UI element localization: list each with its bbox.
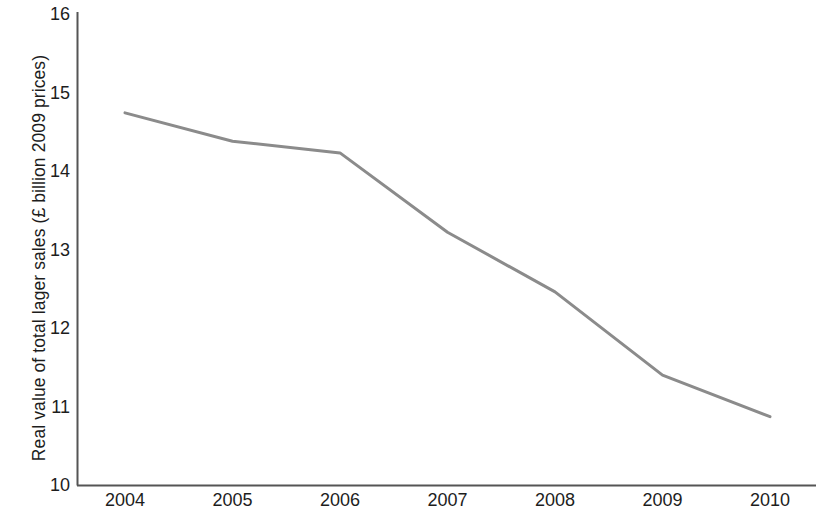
x-tick-label: 2007 <box>403 490 493 511</box>
x-tick-label: 2010 <box>725 490 815 511</box>
x-tick-label: 2005 <box>188 490 278 511</box>
x-tick-label: 2009 <box>618 490 708 511</box>
x-tick-label: 2004 <box>80 490 170 511</box>
line-chart: Real value of total lager sales (£ billi… <box>0 0 816 516</box>
x-tick-label: 2006 <box>295 490 385 511</box>
x-tick-label: 2008 <box>510 490 600 511</box>
x-tick-labels: 2004200520062007200820092010 <box>0 0 816 516</box>
